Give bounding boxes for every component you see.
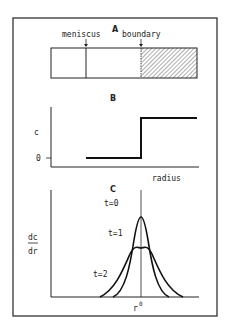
meniscus-label: meniscus: [62, 30, 101, 39]
b-ytick: 0: [36, 154, 41, 163]
step-curve: [86, 118, 197, 158]
b-xlabel: radius: [152, 174, 181, 183]
c-xtick: r: [133, 304, 138, 313]
c-ylabel-bottom: dr: [28, 247, 38, 256]
boundary-label: boundary: [122, 30, 161, 39]
t2-curve: [100, 247, 183, 297]
c-ylabel-top: dc: [28, 233, 38, 242]
panel-a-label: A: [112, 25, 119, 34]
b-ylabel: c: [34, 128, 39, 137]
c-xtick-sup: 0: [139, 300, 143, 307]
sedimentation-diagram: A meniscus boundary B c 0 radius C dc dr…: [0, 0, 227, 329]
t1-label: t=1: [108, 229, 123, 238]
sediment-region: [141, 48, 197, 78]
panel-c-label: C: [110, 185, 116, 194]
t2-label: t=2: [93, 270, 108, 279]
panel-b-label: B: [110, 94, 116, 103]
t0-label: t=0: [104, 199, 119, 208]
